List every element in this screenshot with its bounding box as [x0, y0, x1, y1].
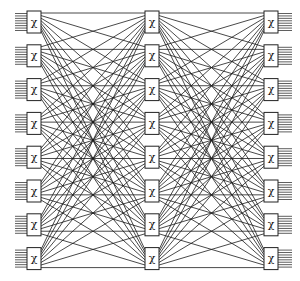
crossbar-symbol: χ: [31, 49, 38, 62]
input-switch-6: χ: [27, 180, 41, 202]
input-switch-5: χ: [27, 146, 41, 168]
input-switch-7: χ: [27, 214, 41, 236]
middle-switch-5: χ: [145, 146, 159, 168]
middle-switch-2: χ: [145, 45, 159, 67]
crossbar-symbol: χ: [268, 117, 275, 130]
clos-network-diagram: χχχχχχχχχχχχχχχχχχχχχχχχ: [0, 0, 300, 281]
input-switch-4: χ: [27, 112, 41, 134]
crossbar-symbol: χ: [31, 218, 38, 231]
middle-switch-1: χ: [145, 11, 159, 33]
crossbar-symbol: χ: [149, 117, 156, 130]
output-switch-2: χ: [264, 45, 278, 67]
middle-switch-8: χ: [145, 248, 159, 270]
crossbar-symbol: χ: [268, 49, 275, 62]
output-switch-1: χ: [264, 11, 278, 33]
output-switch-8: χ: [264, 248, 278, 270]
crossbar-symbol: χ: [268, 218, 275, 231]
crossbar-symbol: χ: [268, 16, 275, 29]
middle-switch-7: χ: [145, 214, 159, 236]
crossbar-symbol: χ: [149, 185, 156, 198]
output-switch-3: χ: [264, 79, 278, 101]
output-switch-7: χ: [264, 214, 278, 236]
network-svg: χχχχχχχχχχχχχχχχχχχχχχχχ: [0, 0, 300, 281]
crossbar-symbol: χ: [268, 83, 275, 96]
crossbar-symbol: χ: [149, 49, 156, 62]
output-switch-6: χ: [264, 180, 278, 202]
input-switch-3: χ: [27, 79, 41, 101]
crossbar-symbol: χ: [268, 252, 275, 265]
crossbar-symbol: χ: [31, 252, 38, 265]
input-switch-2: χ: [27, 45, 41, 67]
crossbar-symbol: χ: [149, 218, 156, 231]
crossbar-symbol: χ: [268, 151, 275, 164]
crossbar-symbol: χ: [268, 185, 275, 198]
crossbar-symbol: χ: [149, 252, 156, 265]
middle-switch-4: χ: [145, 112, 159, 134]
crossbar-symbol: χ: [149, 151, 156, 164]
crossbar-symbol: χ: [31, 151, 38, 164]
crossbar-symbol: χ: [31, 117, 38, 130]
output-switch-5: χ: [264, 146, 278, 168]
output-switch-4: χ: [264, 112, 278, 134]
crossbar-symbol: χ: [149, 83, 156, 96]
crossbar-symbol: χ: [31, 16, 38, 29]
crossbar-symbol: χ: [31, 185, 38, 198]
crossbar-symbol: χ: [31, 83, 38, 96]
input-switch-1: χ: [27, 11, 41, 33]
middle-switch-3: χ: [145, 79, 159, 101]
middle-switch-6: χ: [145, 180, 159, 202]
input-switch-8: χ: [27, 248, 41, 270]
crossbar-symbol: χ: [149, 16, 156, 29]
switch-boxes: χχχχχχχχχχχχχχχχχχχχχχχχ: [27, 11, 278, 270]
